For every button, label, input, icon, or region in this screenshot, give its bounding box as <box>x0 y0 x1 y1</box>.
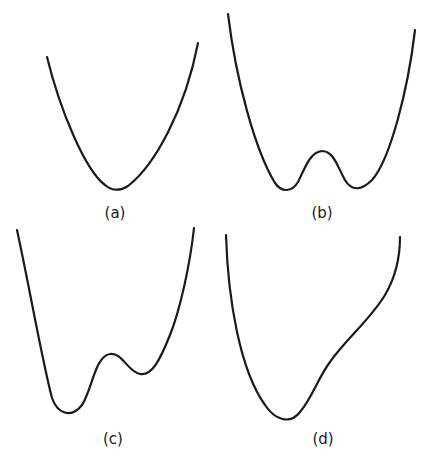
curve-b <box>228 14 415 190</box>
curve-d <box>226 235 400 419</box>
label-a: (a) <box>105 204 126 222</box>
panel-a: (a) <box>47 43 198 222</box>
potential-curves-diagram: (a) (b) (c) (d) <box>0 0 425 462</box>
curve-a <box>47 43 198 190</box>
panel-b: (b) <box>228 14 415 222</box>
panel-c: (c) <box>17 228 194 448</box>
label-b: (b) <box>311 204 332 222</box>
label-d: (d) <box>312 430 333 448</box>
label-c: (c) <box>103 430 123 448</box>
panel-d: (d) <box>226 235 400 448</box>
curve-c <box>17 228 194 413</box>
